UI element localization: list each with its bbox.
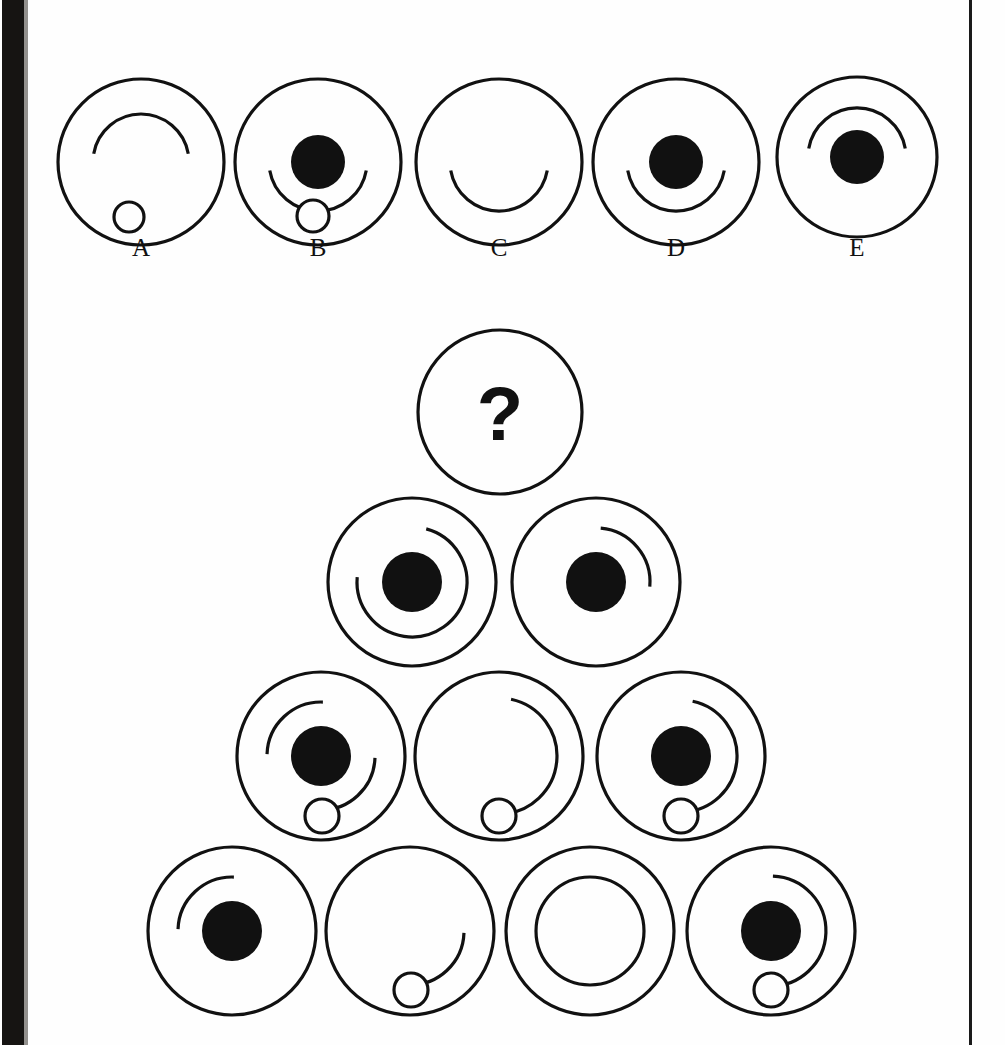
small-hollow-circle bbox=[114, 202, 144, 232]
outer-circle bbox=[416, 79, 582, 245]
figure-r2c2 bbox=[512, 498, 680, 666]
option-label-A: A bbox=[132, 234, 150, 261]
option-C[interactable] bbox=[416, 79, 582, 245]
option-A[interactable] bbox=[58, 79, 224, 245]
pyramid-row-4 bbox=[148, 847, 855, 1015]
option-E[interactable] bbox=[777, 77, 937, 237]
arc-1 bbox=[451, 171, 548, 212]
small-hollow-circle bbox=[754, 973, 788, 1007]
question-mark-glyph: ? bbox=[477, 371, 523, 456]
figure-r4c2 bbox=[326, 847, 494, 1015]
inner-circle bbox=[536, 877, 644, 985]
option-D[interactable] bbox=[593, 79, 759, 245]
figure-r4c4 bbox=[687, 847, 855, 1015]
figure-r3c1 bbox=[237, 672, 405, 840]
small-hollow-circle bbox=[297, 200, 329, 232]
small-hollow-circle bbox=[482, 799, 516, 833]
puzzle-figure: ABCDE ? bbox=[0, 0, 1005, 1045]
small-hollow-circle bbox=[664, 799, 698, 833]
option-label-E: E bbox=[849, 234, 864, 261]
figure-r3c2 bbox=[415, 672, 583, 840]
small-hollow-circle bbox=[305, 799, 339, 833]
filled-dot bbox=[830, 130, 884, 184]
outer-circle bbox=[506, 847, 674, 1015]
pyramid-row-2 bbox=[328, 498, 680, 666]
option-label-B: B bbox=[310, 234, 327, 261]
arc-1 bbox=[94, 114, 189, 154]
option-label-D: D bbox=[667, 234, 685, 261]
pyramid-figures bbox=[148, 498, 855, 1015]
figure-r4c1 bbox=[148, 847, 316, 1015]
filled-dot bbox=[651, 726, 711, 786]
puzzle-page: ABCDE ? bbox=[0, 0, 1005, 1045]
option-label-C: C bbox=[491, 234, 508, 261]
pyramid-row-3 bbox=[237, 672, 765, 840]
filled-dot bbox=[202, 901, 262, 961]
figure-r3c3 bbox=[597, 672, 765, 840]
filled-dot bbox=[291, 726, 351, 786]
figure-r2c1 bbox=[328, 498, 496, 666]
filled-dot bbox=[382, 552, 442, 612]
figure-r4c3 bbox=[506, 847, 674, 1015]
option-B[interactable] bbox=[235, 79, 401, 245]
small-hollow-circle bbox=[394, 973, 428, 1007]
filled-dot bbox=[649, 135, 703, 189]
arc-1 bbox=[501, 699, 557, 814]
filled-dot bbox=[741, 901, 801, 961]
question-circle[interactable]: ? bbox=[418, 330, 582, 494]
filled-dot bbox=[566, 552, 626, 612]
filled-dot bbox=[291, 135, 345, 189]
answer-options-row: ABCDE bbox=[58, 77, 937, 261]
